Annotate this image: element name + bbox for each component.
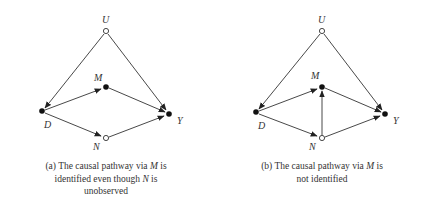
edge-m-y: [325, 88, 381, 112]
label-u: U: [318, 14, 326, 25]
caption-a-text-2: identified even though: [55, 174, 143, 184]
node-y-observed: [382, 111, 388, 117]
caption-a-text-1b: is: [158, 161, 167, 171]
label-u: U: [102, 14, 110, 25]
caption-a-text-1: (a) The causal pathway via: [45, 161, 150, 171]
caption-b-text-1b: is: [374, 161, 383, 171]
node-d-observed: [253, 109, 259, 115]
panel-b-graph: U M D Y N: [253, 14, 400, 152]
label-m: M: [310, 70, 320, 81]
label-n: N: [92, 141, 101, 152]
caption-a-var-m: M: [150, 161, 158, 171]
edge-m-y: [109, 88, 165, 112]
node-m-observed: [103, 84, 109, 90]
caption-b-text-2: not identified: [297, 174, 348, 184]
edge-d-m: [45, 89, 101, 110]
caption-b: (b) The causal pathway via M is not iden…: [232, 160, 412, 185]
node-n-unobserved: [319, 135, 324, 140]
label-d: D: [43, 119, 52, 130]
edge-d-n: [259, 114, 317, 136]
edge-u-d: [45, 34, 104, 108]
node-u-unobserved: [319, 28, 324, 33]
node-y-observed: [166, 111, 172, 117]
node-u-unobserved: [103, 28, 108, 33]
caption-b-var-m: M: [366, 161, 374, 171]
edge-d-m: [259, 89, 317, 111]
label-y: Y: [393, 115, 400, 126]
edge-u-y: [324, 34, 382, 110]
label-y: Y: [177, 115, 184, 126]
node-m-observed: [319, 84, 325, 90]
label-m: M: [93, 72, 103, 83]
label-d: D: [257, 120, 266, 131]
panel-a-graph: U M D Y N: [39, 14, 184, 152]
caption-b-text-1: (b) The causal pathway via: [261, 161, 366, 171]
label-n: N: [308, 141, 317, 152]
edge-u-y: [108, 34, 166, 110]
caption-a-text-2b: is: [149, 174, 158, 184]
caption-a: (a) The causal pathway via M is identifi…: [16, 160, 196, 198]
caption-a-text-3: unobserved: [84, 186, 128, 196]
edge-d-n: [45, 113, 101, 136]
node-n-unobserved: [103, 135, 108, 140]
edge-n-y: [325, 116, 380, 137]
node-d-observed: [39, 108, 45, 114]
edge-n-y: [109, 116, 164, 137]
